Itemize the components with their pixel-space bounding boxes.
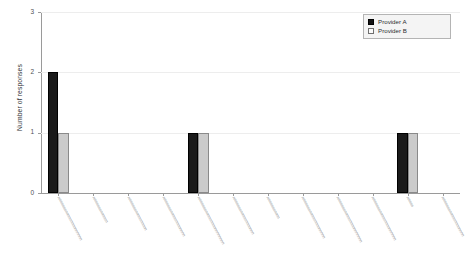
y-axis-tick-label: 2 [14, 69, 34, 76]
legend-swatch-icon-provider-a [368, 19, 374, 25]
bar-provider-a [188, 133, 199, 193]
bar-provider-a [48, 72, 59, 193]
legend-item-provider-b: Provider B [368, 27, 446, 35]
y-axis-tick-label: 0 [14, 190, 34, 197]
gridline [41, 12, 460, 13]
gridline [41, 72, 460, 73]
legend-label-provider-a: Provider A [378, 19, 407, 25]
bar-provider-b [58, 133, 69, 193]
y-axis-tick-mark [38, 193, 41, 194]
legend-label-provider-b: Provider B [378, 28, 407, 34]
bar-provider-a [397, 133, 408, 193]
bar-provider-b [198, 133, 209, 193]
bar-provider-b [408, 133, 419, 193]
chart-legend: Provider A Provider B [363, 14, 451, 39]
legend-item-provider-a: Provider A [368, 18, 446, 26]
y-axis-tick-label: 3 [14, 9, 34, 16]
y-axis-tick-label: 1 [14, 129, 34, 136]
plot-area [41, 12, 460, 193]
legend-swatch-icon-provider-b [368, 28, 374, 34]
